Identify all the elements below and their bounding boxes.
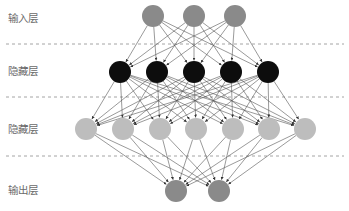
connection-arrow bbox=[200, 25, 225, 62]
neuron-node bbox=[185, 118, 207, 140]
connection-arrow bbox=[204, 77, 295, 124]
connection-edges bbox=[92, 21, 299, 186]
neuron-node bbox=[142, 5, 164, 27]
connection-arrow bbox=[180, 139, 193, 180]
neuron-node bbox=[183, 61, 205, 83]
neuron-node bbox=[112, 118, 134, 140]
layer-label: 隐藏层 bbox=[8, 65, 38, 77]
neuron-node bbox=[165, 180, 187, 202]
connection-arrow bbox=[186, 135, 260, 185]
layer-label: 隐藏层 bbox=[8, 123, 38, 135]
connection-arrow bbox=[274, 81, 299, 119]
connection-arrow bbox=[130, 137, 168, 182]
connection-arrow bbox=[97, 76, 221, 125]
layer-label: 输入层 bbox=[8, 12, 38, 24]
connection-arrow bbox=[132, 135, 209, 185]
neuron-node bbox=[109, 61, 131, 83]
connection-arrow bbox=[268, 83, 269, 118]
connection-arrow bbox=[240, 79, 296, 122]
connection-arrow bbox=[228, 135, 296, 184]
neuron-node bbox=[75, 118, 97, 140]
neuron-node bbox=[257, 61, 279, 83]
neuron-node bbox=[149, 118, 171, 140]
layer-label: 输出层 bbox=[8, 184, 38, 196]
neuron-node bbox=[222, 118, 244, 140]
neuron-node bbox=[208, 180, 230, 202]
connection-arrow bbox=[186, 134, 295, 186]
neuron-node bbox=[294, 118, 316, 140]
connection-arrow bbox=[163, 25, 188, 62]
connection-arrow bbox=[226, 138, 262, 182]
neuron-node bbox=[220, 61, 242, 83]
connection-arrow bbox=[163, 140, 173, 180]
neural-network-diagram bbox=[0, 0, 349, 211]
neuron-node bbox=[258, 118, 280, 140]
neuron-nodes bbox=[75, 5, 316, 202]
connection-arrow bbox=[96, 77, 184, 123]
neuron-node bbox=[146, 61, 168, 83]
connection-arrow bbox=[200, 139, 215, 180]
neuron-node bbox=[224, 5, 246, 27]
connection-arrow bbox=[92, 81, 114, 119]
neuron-node bbox=[183, 5, 205, 27]
connection-arrow bbox=[95, 135, 166, 184]
